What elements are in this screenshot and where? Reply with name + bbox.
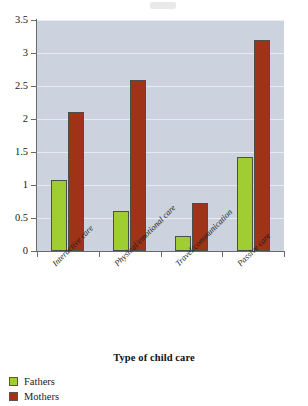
x-axis-title: Type of child care bbox=[0, 352, 308, 363]
bar-mothers-3 bbox=[254, 40, 270, 251]
legend-label-mothers: Mothers bbox=[24, 391, 59, 402]
y-axis-tick bbox=[31, 185, 37, 186]
legend-swatch-fathers-icon bbox=[9, 377, 18, 386]
x-axis-tick bbox=[37, 251, 38, 257]
gridline bbox=[37, 86, 284, 87]
y-axis-tick bbox=[31, 86, 37, 87]
x-axis-tick bbox=[284, 251, 285, 257]
y-axis-tick-label: 1 bbox=[0, 180, 28, 190]
gridline bbox=[37, 20, 284, 21]
bar-mothers-1 bbox=[130, 80, 146, 251]
x-axis-tick bbox=[222, 251, 223, 257]
bar-fathers-3 bbox=[237, 157, 253, 251]
y-axis-tick bbox=[31, 119, 37, 120]
legend-label-fathers: Fathers bbox=[24, 376, 55, 387]
y-axis-tick bbox=[31, 152, 37, 153]
y-axis-tick bbox=[31, 53, 37, 54]
y-axis-tick-label: 1.5 bbox=[0, 147, 28, 157]
scan-artifact bbox=[150, 2, 176, 9]
gridline bbox=[37, 53, 284, 54]
x-axis-tick bbox=[161, 251, 162, 257]
y-axis-tick-label: 0 bbox=[0, 246, 28, 256]
legend-item-fathers: Fathers bbox=[9, 374, 59, 389]
bar-fathers-0 bbox=[51, 180, 67, 251]
x-axis-tick bbox=[99, 251, 100, 257]
y-axis-tick-label: 2.5 bbox=[0, 81, 28, 91]
legend-item-mothers: Mothers bbox=[9, 389, 59, 404]
y-axis-tick-label: 0.5 bbox=[0, 213, 28, 223]
y-axis-tick-label: 3 bbox=[0, 48, 28, 58]
bar-chart-figure: 00.511.522.533.5 Interactive carePhysica… bbox=[0, 0, 308, 406]
legend-swatch-mothers-icon bbox=[9, 392, 18, 401]
y-axis-tick bbox=[31, 218, 37, 219]
legend: Fathers Mothers bbox=[9, 374, 59, 404]
y-axis-tick bbox=[31, 20, 37, 21]
y-axis-tick-label: 3.5 bbox=[0, 15, 28, 25]
y-axis-tick-label: 2 bbox=[0, 114, 28, 124]
